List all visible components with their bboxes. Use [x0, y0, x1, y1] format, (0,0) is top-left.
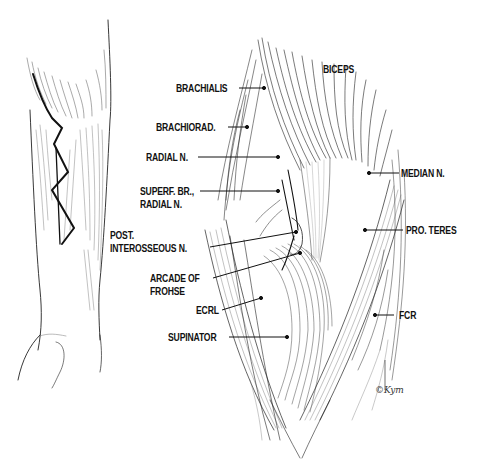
label-post: POST. — [110, 229, 134, 241]
dissection-drawing — [205, 38, 406, 458]
label-fcr: FCR — [399, 309, 416, 321]
label-ecrl: ECRL — [196, 304, 219, 316]
label-supinator: SUPINATOR — [168, 331, 216, 343]
label-arcade-of: ARCADE OF — [150, 272, 200, 284]
label-superf-br-radial: RADIAL N. — [140, 198, 182, 210]
label-frohse: FROHSE — [150, 285, 185, 297]
label-radial-n: RADIAL N. — [146, 151, 188, 163]
label-biceps: BICEPS — [323, 63, 354, 75]
label-superf-br: SUPERF. BR., — [140, 185, 194, 197]
label-brachialis: BRACHIALIS — [176, 82, 227, 94]
forearm-drawing — [18, 20, 111, 388]
label-interosseous-n: INTEROSSEOUS N. — [110, 242, 187, 254]
leader-lines — [198, 86, 403, 390]
label-median-n: MEDIAN N. — [401, 167, 444, 179]
label-brachiorad: BRACHIORAD. — [156, 121, 215, 133]
label-pro-teres: PRO. TERES — [406, 224, 457, 236]
artist-signature: ©Kym — [375, 385, 404, 395]
